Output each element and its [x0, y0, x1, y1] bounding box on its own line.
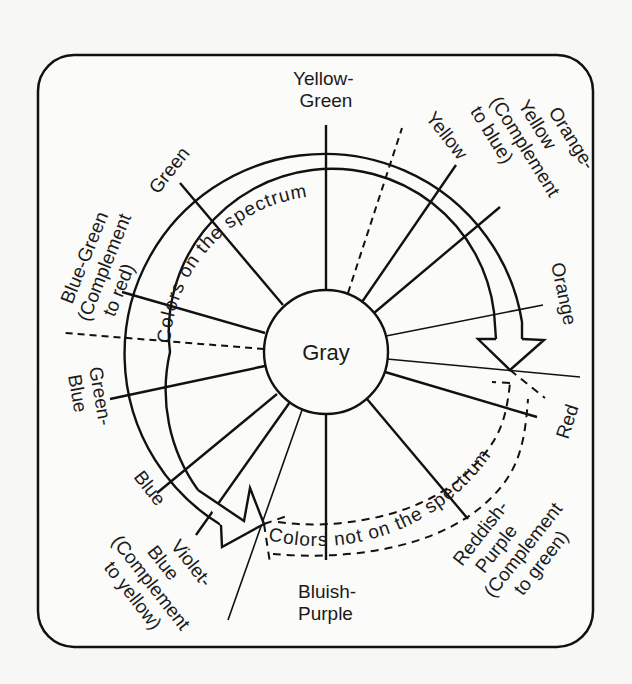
- gray-label: Gray: [302, 340, 350, 365]
- color-circle-diagram: Gray Colors on the spectrum Colors not o…: [0, 0, 632, 684]
- label-yellow-green: Yellow- Green: [293, 68, 359, 111]
- label-bluish-purple: Bluish- Purple: [298, 581, 361, 624]
